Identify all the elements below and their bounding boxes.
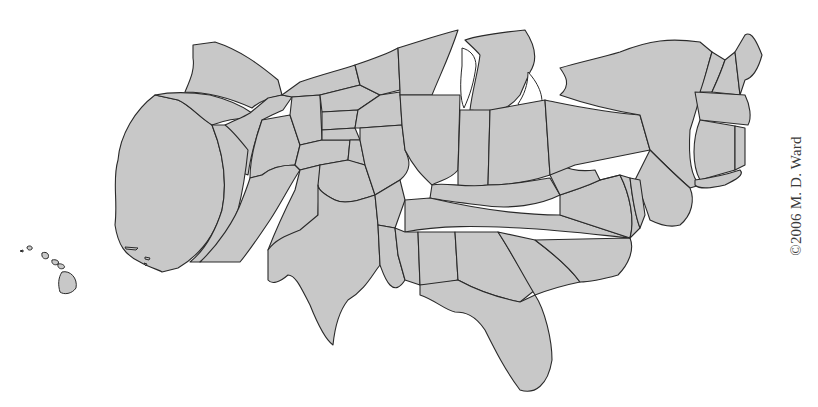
channel-island-2	[145, 257, 150, 260]
channel-island-3	[144, 263, 147, 266]
state-florida	[420, 280, 552, 391]
state-maine	[735, 34, 762, 95]
us-cartogram-map	[0, 0, 818, 407]
state-nebraska	[322, 128, 360, 140]
state-rhode-island	[735, 126, 745, 170]
state-indiana	[458, 110, 490, 190]
channel-island-1	[125, 247, 138, 250]
state-alabama	[418, 232, 458, 285]
state-illinois	[400, 95, 460, 185]
state-ohio	[488, 100, 550, 185]
hawaii-island-2	[42, 252, 49, 258]
state-south-dakota	[322, 110, 358, 130]
state-texas	[268, 185, 380, 345]
state-connecticut	[694, 120, 735, 180]
hawaii-island-4	[58, 264, 65, 269]
state-wisconsin	[398, 30, 458, 95]
copyright-notice: ©2006 M. D. Ward	[788, 136, 805, 255]
hawaii-island-1	[27, 246, 32, 250]
hawaii-island-5	[20, 250, 23, 252]
hawaii-big-island	[59, 272, 77, 294]
